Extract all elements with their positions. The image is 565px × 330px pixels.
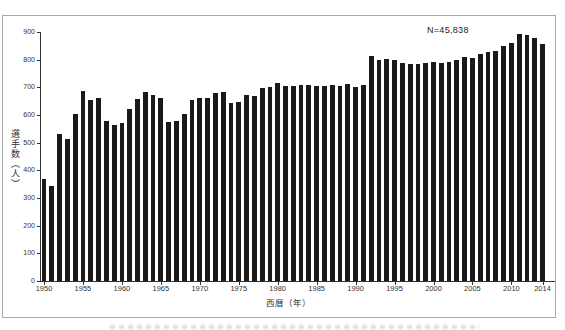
y-tick-label-700: 700 [13, 83, 35, 91]
bar-2001 [439, 63, 444, 281]
x-axis-title: 西暦（年） [248, 296, 328, 308]
y-tick-label-300: 300 [13, 194, 35, 202]
bar-2000 [431, 62, 436, 281]
figure-border: N=45,838 選手数（人） 西暦（年） 010020030040050060… [2, 15, 556, 318]
y-tick-700 [37, 87, 40, 88]
bar-1983 [299, 85, 304, 281]
bar-1963 [143, 92, 148, 281]
x-tick-label-2014: 2014 [528, 285, 558, 293]
y-tick-400 [37, 170, 40, 171]
bar-1952 [57, 134, 62, 281]
bar-1967 [174, 121, 179, 281]
bar-1961 [127, 109, 132, 281]
plot-area: N=45,838 選手数（人） 西暦（年） 010020030040050060… [3, 16, 555, 317]
bar-1996 [400, 63, 405, 281]
bar-2004 [462, 57, 467, 281]
x-tick-label-1965: 1965 [146, 285, 176, 293]
y-tick-label-400: 400 [13, 166, 35, 174]
bar-1981 [283, 86, 288, 281]
x-axis [40, 281, 555, 282]
y-tick-label-200: 200 [13, 222, 35, 230]
y-tick-label-600: 600 [13, 111, 35, 119]
y-tick-label-100: 100 [13, 249, 35, 257]
bar-1977 [252, 96, 257, 281]
x-tick-label-2005: 2005 [457, 285, 487, 293]
bar-1979 [268, 87, 273, 281]
chart-figure: N=45,838 選手数（人） 西暦（年） 010020030040050060… [0, 0, 565, 330]
bar-1997 [408, 64, 413, 281]
x-tick-label-2000: 2000 [419, 285, 449, 293]
x-tick-label-1990: 1990 [341, 285, 371, 293]
y-tick-label-900: 900 [13, 28, 35, 36]
bar-1960 [120, 123, 125, 281]
bar-1986 [322, 86, 327, 281]
bar-1990 [353, 87, 358, 281]
bar-1982 [291, 86, 296, 281]
bar-2008 [493, 51, 498, 281]
y-tick-300 [37, 198, 40, 199]
bar-1968 [182, 114, 187, 281]
bar-1973 [221, 92, 226, 281]
bar-1999 [423, 63, 428, 281]
y-tick-label-0: 0 [13, 277, 35, 285]
bar-2005 [470, 58, 475, 281]
bar-2002 [447, 62, 452, 281]
bar-1957 [96, 98, 101, 281]
bar-1978 [260, 88, 265, 281]
x-tick-label-1980: 1980 [263, 285, 293, 293]
bar-1954 [73, 114, 78, 281]
x-tick-label-1970: 1970 [185, 285, 215, 293]
cutoff-caption-remnant [110, 325, 480, 329]
bar-1950 [42, 179, 47, 281]
bar-1956 [88, 100, 93, 281]
y-tick-200 [37, 226, 40, 227]
bar-1984 [306, 85, 311, 281]
y-tick-800 [37, 60, 40, 61]
x-tick-label-1975: 1975 [224, 285, 254, 293]
bar-1959 [112, 125, 117, 281]
bar-1969 [190, 100, 195, 281]
x-tick-label-1950: 1950 [29, 285, 59, 293]
bar-1972 [213, 93, 218, 281]
bar-1976 [244, 95, 249, 281]
bar-1970 [197, 98, 202, 281]
bar-2013 [532, 38, 537, 281]
bar-1995 [392, 60, 397, 281]
bar-1951 [49, 186, 54, 281]
bar-1953 [65, 139, 70, 281]
bar-2006 [478, 54, 483, 281]
x-tick-label-1960: 1960 [107, 285, 137, 293]
bar-1989 [345, 84, 350, 281]
bar-1985 [314, 86, 319, 281]
bar-1991 [361, 85, 366, 281]
bar-1971 [205, 98, 210, 281]
bar-1993 [377, 60, 382, 281]
bar-1994 [384, 59, 389, 281]
sample-size-annotation: N=45,838 [427, 25, 469, 35]
bar-2012 [525, 35, 530, 281]
bar-1955 [81, 91, 86, 281]
bar-1965 [158, 98, 163, 281]
bar-1966 [166, 122, 171, 281]
bar-2007 [486, 52, 491, 281]
bar-2014 [540, 44, 545, 281]
bar-2009 [501, 46, 506, 281]
y-tick-100 [37, 253, 40, 254]
bar-2010 [509, 43, 514, 281]
x-tick-label-1955: 1955 [68, 285, 98, 293]
bar-2003 [454, 60, 459, 281]
y-tick-label-800: 800 [13, 56, 35, 64]
bar-1962 [135, 99, 140, 281]
bar-1964 [151, 95, 156, 281]
y-tick-500 [37, 143, 40, 144]
bar-1980 [275, 83, 280, 281]
bar-1992 [369, 56, 374, 281]
bar-1974 [229, 103, 234, 281]
bar-1998 [416, 64, 421, 281]
bar-1958 [104, 121, 109, 281]
x-tick-label-1995: 1995 [380, 285, 410, 293]
y-tick-900 [37, 32, 40, 33]
y-tick-600 [37, 115, 40, 116]
bar-1975 [236, 102, 241, 281]
bar-2011 [517, 34, 522, 281]
